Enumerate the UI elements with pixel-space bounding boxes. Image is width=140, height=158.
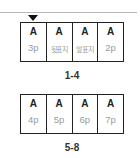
master-glyph: A: [30, 26, 37, 38]
page-thumb[interactable]: A 5p: [47, 95, 73, 133]
page-thumb[interactable]: A 6p: [73, 95, 99, 133]
page-thumb[interactable]: A 뒷표지: [47, 23, 73, 61]
page-thumb[interactable]: A 3p: [21, 23, 47, 61]
master-glyph: A: [56, 98, 63, 110]
master-glyph: A: [107, 26, 114, 38]
page-number: 5p: [54, 114, 65, 126]
spread-5-8[interactable]: A 4p A 5p A 6p A 7p: [20, 94, 124, 134]
spread-1-4[interactable]: A 3p A 뒷표지 A 앞표지 A 2p: [20, 22, 124, 62]
page-thumb[interactable]: A 2p: [98, 23, 123, 61]
spread-label: 5-8: [20, 142, 124, 153]
page-number: 앞표지: [76, 44, 93, 56]
master-glyph: A: [81, 26, 88, 38]
page-thumb[interactable]: A 4p: [21, 95, 47, 133]
master-glyph: A: [107, 98, 114, 110]
page-number: 6p: [80, 114, 91, 126]
page-number: 4p: [28, 114, 39, 126]
page-number: 3p: [28, 42, 39, 54]
page-thumb[interactable]: A 7p: [98, 95, 123, 133]
current-page-marker-icon: [28, 15, 38, 21]
master-glyph: A: [30, 98, 37, 110]
page-thumb[interactable]: A 앞표지: [73, 23, 99, 61]
page-number: 2p: [105, 42, 116, 54]
master-glyph: A: [81, 98, 88, 110]
spread-label: 1-4: [20, 70, 124, 81]
page-number: 뒷표지: [51, 44, 68, 56]
page-number: 7p: [105, 114, 116, 126]
top-divider: [0, 12, 137, 13]
master-glyph: A: [56, 26, 63, 38]
